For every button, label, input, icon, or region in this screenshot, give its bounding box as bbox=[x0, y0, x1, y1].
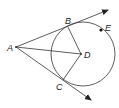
ray-ac bbox=[16, 47, 91, 100]
segment-dc bbox=[63, 54, 81, 80]
label-e: E bbox=[105, 23, 112, 33]
segment-db bbox=[68, 27, 81, 54]
point-e bbox=[99, 28, 102, 31]
geometry-diagram: A B C D E bbox=[0, 0, 119, 108]
segment-ad bbox=[16, 47, 81, 54]
point-a bbox=[15, 46, 17, 48]
label-d: D bbox=[84, 50, 91, 60]
label-b: B bbox=[65, 16, 71, 26]
ray-ab bbox=[16, 10, 108, 47]
label-a: A bbox=[6, 43, 13, 53]
label-c: C bbox=[56, 82, 63, 92]
point-d bbox=[80, 53, 82, 55]
